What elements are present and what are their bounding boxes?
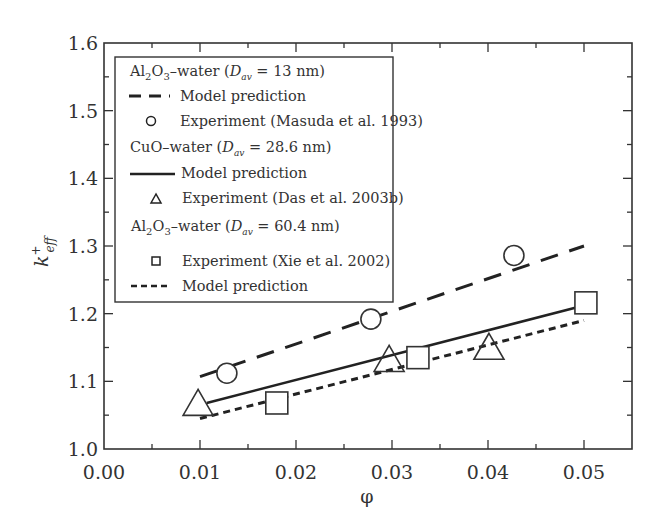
legend: Al2O3–water (Dav = 13 nm) Model predicti… (115, 57, 423, 302)
y-axis-label: k+eff (29, 234, 57, 267)
x-tick-label: 0.01 (179, 461, 221, 483)
circle-marker (361, 309, 381, 329)
square-marker (407, 347, 429, 369)
y-tick-label: 1.6 (68, 32, 98, 54)
model-line-short-dash (200, 320, 584, 418)
legend-group1-experiment: Experiment (Masuda et al. 1993) (180, 113, 423, 129)
x-tick-label: 0.04 (467, 461, 509, 483)
legend-group3-model: Model prediction (182, 278, 308, 294)
x-tick-label: 0.00 (83, 461, 125, 483)
y-tick-label: 1.3 (68, 235, 98, 257)
legend-group2-experiment: Experiment (Das et al. 2003b) (182, 190, 404, 206)
legend-group3-experiment: Experiment (Xie et al. 2002) (182, 253, 390, 269)
y-tick-label: 1.5 (68, 100, 98, 122)
y-tick-label: 1.1 (68, 370, 98, 392)
x-tick-label: 0.02 (275, 461, 317, 483)
legend-group2-model: Model prediction (181, 165, 307, 181)
triangle-marker (474, 333, 504, 359)
y-tick-label: 1.2 (68, 303, 98, 325)
y-tick-label: 1.0 (68, 438, 98, 460)
circle-marker (217, 363, 237, 383)
x-tick-label: 0.03 (371, 461, 413, 483)
x-axis-label: φ (360, 485, 373, 507)
legend-group1-model: Model prediction (180, 88, 306, 104)
chart-canvas: 0.000.010.020.030.040.051.01.11.21.31.41… (0, 0, 662, 531)
x-tick-label: 0.05 (563, 461, 605, 483)
svg-text:k+eff: k+eff (29, 234, 57, 267)
y-tick-label: 1.4 (68, 167, 98, 189)
circle-marker (504, 245, 524, 265)
square-marker (266, 392, 288, 414)
square-marker (575, 292, 597, 314)
